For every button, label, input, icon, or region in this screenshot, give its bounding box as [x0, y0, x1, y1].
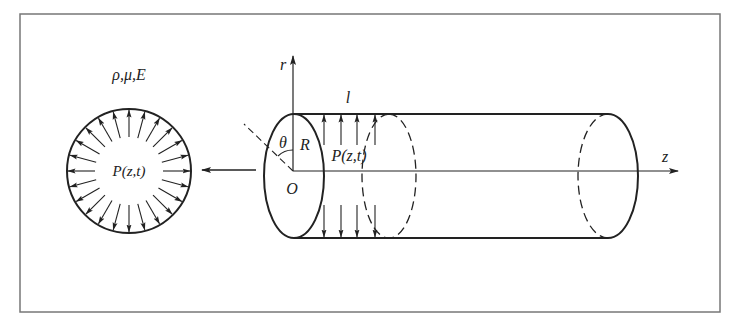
theta-label: θ: [279, 134, 287, 151]
pressure-label-wall: P(z,t): [330, 147, 366, 165]
cylinder: r z l R θ O P(z,t): [244, 56, 678, 238]
radial-arrow: [70, 155, 96, 162]
radial-arrow: [113, 204, 120, 230]
radial-arrow: [86, 128, 105, 147]
mid-ellipse-visible: [389, 114, 416, 238]
r-axis-label: r: [280, 56, 287, 73]
radial-arrow: [162, 180, 188, 187]
radial-arrow: [158, 141, 181, 155]
radial-arrow: [113, 112, 120, 138]
radial-arrow: [138, 204, 145, 230]
radial-arrow: [153, 128, 172, 147]
material-properties-label: ρ,μ,E: [111, 66, 146, 84]
radial-arrow: [153, 195, 172, 214]
radial-arrow: [162, 155, 188, 162]
radial-arrow: [146, 200, 160, 223]
radial-arrow: [146, 118, 160, 141]
front-ellipse: [264, 114, 324, 238]
radial-arrow: [99, 200, 113, 223]
z-axis-label: z: [661, 148, 669, 165]
radial-arrow: [76, 188, 99, 202]
pipe-pressure-diagram: P(z,t) ρ,μ,E r z l R θ O P(z,t): [0, 0, 734, 331]
radial-arrow: [158, 188, 181, 202]
wall-pressure-arrows: [324, 115, 375, 237]
radial-arrow: [86, 195, 105, 214]
length-label: l: [346, 89, 351, 106]
radial-arrow: [99, 118, 113, 141]
radial-arrow: [76, 141, 99, 155]
radial-arrow: [138, 112, 145, 138]
cross-section: P(z,t) ρ,μ,E: [67, 66, 191, 233]
back-ellipse-hidden: [578, 114, 608, 238]
radial-arrow: [70, 180, 96, 187]
pressure-label-cross-section: P(z,t): [112, 163, 146, 180]
radius-label: R: [299, 136, 310, 153]
back-ellipse-visible: [608, 114, 638, 238]
origin-label: O: [286, 180, 298, 197]
